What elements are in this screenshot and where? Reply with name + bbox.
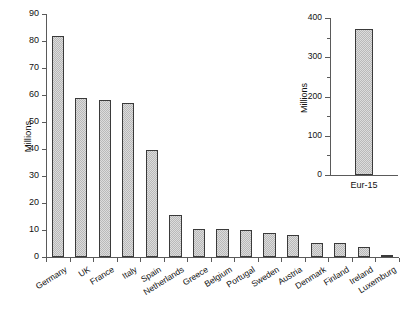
figure-container: 0102030405060708090 Millions GermanyUKFr…: [0, 0, 420, 310]
inset-y-minor-tick: [327, 38, 330, 39]
inset-y-tick-label: 0: [286, 170, 322, 179]
inset-y-minor-tick: [327, 155, 330, 156]
inset-y-axis-title: Millions: [299, 68, 309, 128]
inset-bar-chart: 0100200300400 Millions Eur-15: [0, 0, 420, 310]
inset-y-tick: [325, 97, 330, 98]
inset-bar-eur-15: [355, 29, 373, 175]
inset-y-tick: [325, 18, 330, 19]
inset-y-tick: [325, 57, 330, 58]
inset-category-label: Eur-15: [334, 180, 394, 190]
inset-y-tick-label: 400: [286, 13, 322, 22]
inset-y-tick: [325, 175, 330, 176]
inset-y-tick-label: 100: [286, 131, 322, 140]
inset-y-tick: [325, 136, 330, 137]
inset-y-minor-tick: [327, 116, 330, 117]
inset-y-tick-label: 300: [286, 52, 322, 61]
inset-y-axis-line: [330, 18, 331, 176]
inset-x-axis-line: [330, 175, 398, 176]
inset-y-minor-tick: [327, 77, 330, 78]
